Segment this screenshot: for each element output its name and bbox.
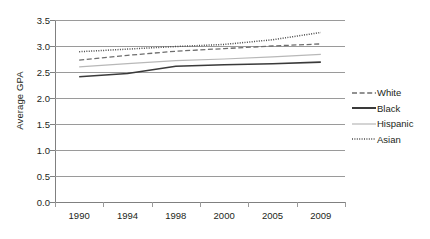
legend-item-asian[interactable]: Asian [352, 132, 430, 148]
x-tick-mark [103, 202, 104, 207]
series-lines [55, 20, 345, 202]
legend: WhiteBlackHispanicAsian [352, 85, 430, 147]
x-tick-label: 2009 [296, 210, 346, 221]
y-tick-label: 2.0 [6, 93, 50, 104]
y-tick-label: 1.0 [6, 145, 50, 156]
legend-label: Asian [377, 134, 401, 145]
x-tick-mark [248, 202, 249, 207]
y-tick-label: 3.5 [6, 15, 50, 26]
legend-item-black[interactable]: Black [352, 101, 430, 117]
y-tick-label: 2.5 [6, 67, 50, 78]
legend-swatch-icon [352, 119, 376, 129]
y-tick-label: 0.5 [6, 171, 50, 182]
x-tick-label: 1990 [54, 210, 104, 221]
series-line-asian [79, 32, 321, 51]
x-tick-mark [345, 202, 346, 207]
legend-swatch-icon [352, 103, 376, 113]
x-tick-mark [152, 202, 153, 207]
x-tick-label: 2005 [248, 210, 298, 221]
y-tick-label: 3.0 [6, 41, 50, 52]
legend-label: Hispanic [377, 118, 413, 129]
y-tick-label: 0.0 [6, 197, 50, 208]
series-line-white [79, 44, 321, 60]
x-tick-mark [297, 202, 298, 207]
gpa-line-chart: Average GPA 0.00.51.01.52.02.53.03.5 199… [0, 0, 430, 239]
legend-item-white[interactable]: White [352, 85, 430, 101]
x-tick-label: 1998 [151, 210, 201, 221]
plot-area [55, 20, 345, 202]
legend-label: Black [377, 103, 400, 114]
x-tick-label: 1994 [103, 210, 153, 221]
x-tick-mark [200, 202, 201, 207]
legend-label: White [377, 87, 401, 98]
y-tick-label: 1.5 [6, 119, 50, 130]
legend-swatch-icon [352, 88, 376, 98]
legend-swatch-icon [352, 134, 376, 144]
x-tick-mark [55, 202, 56, 207]
legend-item-hispanic[interactable]: Hispanic [352, 116, 430, 132]
x-tick-label: 2000 [199, 210, 249, 221]
